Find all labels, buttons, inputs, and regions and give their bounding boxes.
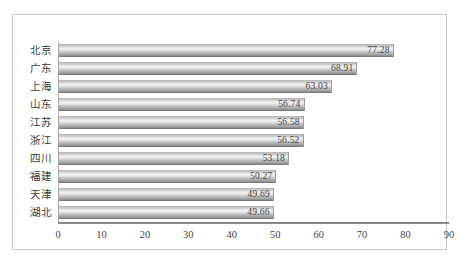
category-label: 天津 [13,186,51,204]
bar-row: 56.52 [58,132,449,150]
x-axis-line [58,222,449,224]
bar-value-label: 56.58 [58,116,300,129]
x-tick-label: 60 [304,226,334,244]
x-tick-label: 90 [434,226,459,244]
bar-row: 68.91 [58,60,449,78]
category-label: 浙江 [13,132,51,150]
value-axis-line [58,42,59,222]
chart-figure: 北京广东上海山东江苏浙江四川福建天津湖北 77.2868.9163.0356.7… [12,14,447,250]
bar-row: 49.66 [58,204,449,222]
bar-value-label: 53.18 [58,152,285,165]
category-label: 福建 [13,168,51,186]
bar-row: 63.03 [58,78,449,96]
category-label: 上海 [13,78,51,96]
bar-row: 77.28 [58,42,449,60]
category-label: 北京 [13,42,51,60]
bar-value-label: 56.52 [58,134,300,147]
x-tick-label: 10 [86,226,116,244]
category-axis: 北京广东上海山东江苏浙江四川福建天津湖北 [13,42,58,222]
category-label: 山东 [13,96,51,114]
bar-value-label: 49.66 [58,206,270,219]
bar-value-label: 49.69 [58,188,270,201]
bar-value-label: 68.91 [58,62,353,75]
x-tick-label: 30 [173,226,203,244]
bar-value-label: 77.28 [58,44,390,57]
bar-row: 49.69 [58,186,449,204]
bar-row: 50.27 [58,168,449,186]
x-tick-label: 40 [217,226,247,244]
category-label: 广东 [13,60,51,78]
x-tick-label: 50 [260,226,290,244]
x-tick-label: 20 [130,226,160,244]
bar-row: 53.18 [58,150,449,168]
x-tick-label: 0 [43,226,73,244]
category-label: 四川 [13,150,51,168]
plot-area: 北京广东上海山东江苏浙江四川福建天津湖北 77.2868.9163.0356.7… [13,15,448,251]
x-axis-tick-labels: 0102030405060708090 [58,226,449,246]
x-tick-label: 80 [391,226,421,244]
bars-layer: 77.2868.9163.0356.7456.5856.5253.1850.27… [58,42,449,222]
category-label: 湖北 [13,204,51,222]
x-tick-label: 70 [347,226,377,244]
bar-value-label: 63.03 [58,80,328,93]
category-label: 江苏 [13,114,51,132]
bar-value-label: 50.27 [58,170,272,183]
bar-value-label: 56.74 [58,98,301,111]
bar-row: 56.58 [58,114,449,132]
bar-row: 56.74 [58,96,449,114]
